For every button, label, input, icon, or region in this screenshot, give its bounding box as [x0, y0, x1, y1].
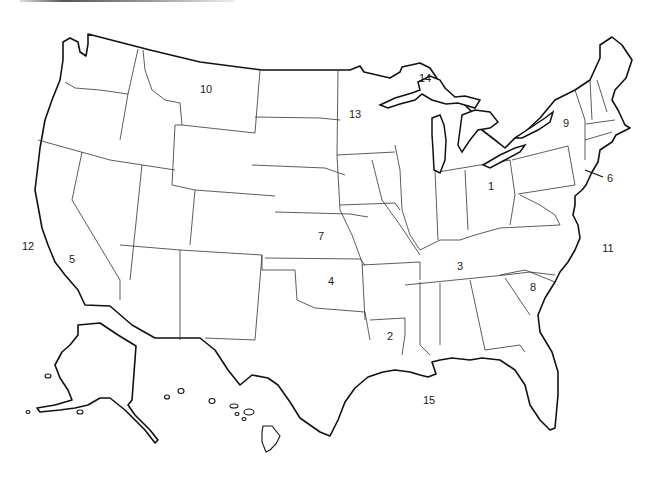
region-label-14: 14: [419, 72, 431, 84]
lake-erie: [483, 145, 525, 168]
region-label-5: 5: [69, 253, 75, 265]
lake-michigan: [432, 115, 446, 173]
region-label-4: 4: [328, 275, 334, 287]
lake-huron: [458, 110, 498, 152]
region-label-1: 1: [488, 180, 494, 192]
region-label-13: 13: [349, 108, 361, 120]
region-label-12: 12: [22, 240, 34, 252]
island: [45, 374, 51, 378]
island: [77, 410, 83, 414]
region-label-9: 9: [563, 117, 569, 129]
state-borders: [38, 49, 615, 355]
region-label-6: 6: [607, 172, 613, 184]
region-label-10: 10: [200, 83, 212, 95]
region-label-11: 11: [602, 242, 613, 254]
region-label-7: 7: [318, 230, 324, 242]
region-label-2: 2: [387, 330, 393, 342]
mainland-outline: [35, 34, 632, 436]
us-map: [0, 0, 661, 479]
region-label-8: 8: [530, 281, 536, 293]
lake-ontario: [515, 112, 553, 138]
alaska-outline: [37, 323, 158, 443]
island: [26, 411, 30, 414]
label-6-pointer: [585, 170, 603, 177]
region-label-3: 3: [457, 260, 463, 272]
hawaii-islands: [165, 389, 281, 453]
region-label-15: 15: [423, 394, 435, 406]
